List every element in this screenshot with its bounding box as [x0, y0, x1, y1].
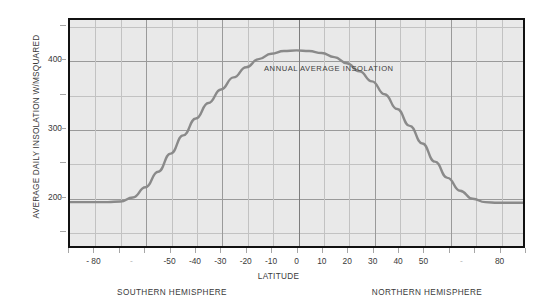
- x-axis-tick-mark: [297, 248, 298, 253]
- y-axis-tick-labels: 200300400: [18, 18, 62, 248]
- x-axis-tick-mark: [271, 248, 272, 253]
- x-axis-tick-marks: [68, 248, 525, 256]
- x-axis-tick-mark: [500, 248, 501, 253]
- y-axis-tick-mark: [60, 94, 66, 95]
- x-axis-tick-mark: [144, 248, 145, 253]
- x-axis-tick-mark: [525, 248, 526, 253]
- y-axis-tick-marks: [60, 18, 68, 248]
- x-axis-tick-label: 50: [403, 256, 443, 266]
- x-axis-tick-label: -: [442, 256, 482, 266]
- x-axis-tick-labels: - 80--50-40-30-20-1001020304050-80: [68, 256, 525, 270]
- x-axis-tick-mark: [423, 248, 424, 253]
- y-axis-tick-mark: [60, 231, 66, 232]
- series-line-annual-average-insolation: [70, 20, 523, 246]
- northern-hemisphere-label: NORTHERN HEMISPHERE: [307, 288, 547, 297]
- y-axis-tick-label: 400: [26, 54, 62, 64]
- y-axis-tick-mark: [60, 59, 66, 60]
- x-axis-tick-mark: [68, 248, 69, 253]
- y-axis-tick-mark: [60, 128, 66, 129]
- x-axis-tick-mark: [93, 248, 94, 253]
- y-axis-tick-mark: [60, 197, 66, 198]
- x-axis-tick-mark: [398, 248, 399, 253]
- x-axis-tick-label: 80: [480, 256, 520, 266]
- x-axis-tick-mark: [449, 248, 450, 253]
- series-path: [70, 50, 523, 202]
- x-axis-tick-mark: [195, 248, 196, 253]
- plot-inner: [70, 20, 523, 246]
- y-axis-tick-label: 300: [26, 123, 62, 133]
- series-annotation-label: ANNUAL AVERAGE INSOLATION: [264, 64, 394, 73]
- x-axis-tick-mark: [119, 248, 120, 253]
- x-axis-tick-label: - 80: [73, 256, 113, 266]
- x-axis-tick-mark: [373, 248, 374, 253]
- x-axis-tick-label: -: [111, 256, 151, 266]
- southern-hemisphere-label: SOUTHERN HEMISPHERE: [52, 288, 292, 297]
- x-axis-tick-mark: [246, 248, 247, 253]
- y-axis-tick-mark: [60, 25, 66, 26]
- x-axis-title: LATITUDE: [0, 272, 557, 281]
- x-axis-tick-mark: [347, 248, 348, 253]
- x-axis-tick-mark: [474, 248, 475, 253]
- insolation-vs-latitude-chart: AVERAGE DAILY INSOLATION W/MSQUARED 2003…: [0, 0, 557, 305]
- y-axis-tick-mark: [60, 162, 66, 163]
- x-axis-tick-mark: [220, 248, 221, 253]
- x-axis-tick-mark: [322, 248, 323, 253]
- y-axis-tick-label: 200: [26, 192, 62, 202]
- x-axis-tick-mark: [170, 248, 171, 253]
- plot-area: [68, 18, 525, 248]
